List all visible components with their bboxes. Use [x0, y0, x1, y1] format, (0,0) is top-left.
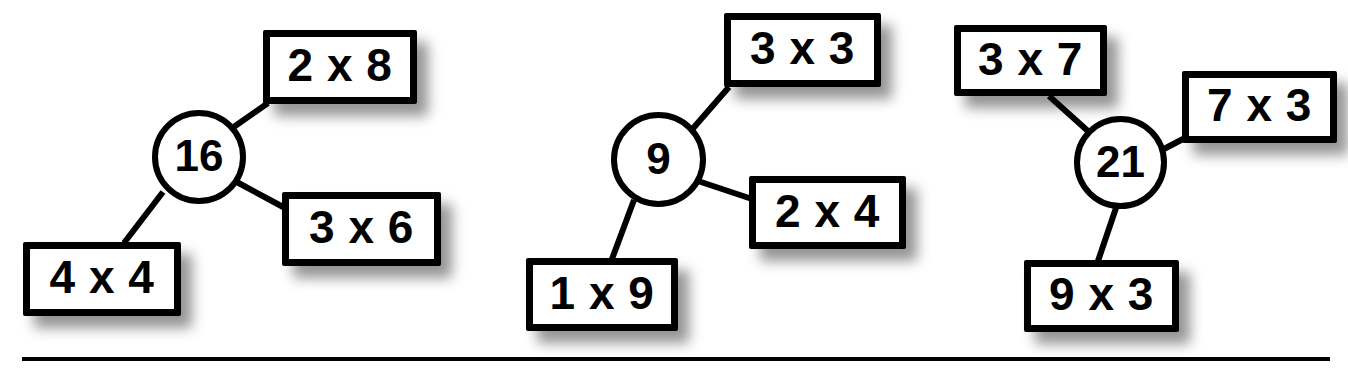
product-circle-9[interactable]: 9 [611, 112, 706, 207]
fact-box-4-x-4[interactable]: 4 x 4 [23, 242, 181, 316]
fact-box-2-x-8[interactable]: 2 x 8 [263, 30, 417, 104]
fact-label: 2 x 8 [288, 42, 393, 88]
baseline-rule [22, 357, 1330, 361]
fact-label: 7 x 3 [1207, 82, 1312, 128]
product-value: 9 [646, 137, 670, 181]
fact-box-3-x-7[interactable]: 3 x 7 [954, 25, 1107, 96]
fact-label: 3 x 6 [309, 204, 414, 250]
fact-box-7-x-3[interactable]: 7 x 3 [1182, 71, 1337, 143]
product-circle-16[interactable]: 16 [152, 110, 246, 204]
connector-line [1049, 96, 1089, 132]
fact-label: 3 x 7 [978, 36, 1083, 82]
fact-label: 1 x 9 [550, 270, 655, 316]
fact-box-9-x-3[interactable]: 9 x 3 [1024, 260, 1179, 332]
fact-box-1-x-9[interactable]: 1 x 9 [526, 258, 678, 331]
connector-line [612, 200, 634, 259]
connector-line [233, 180, 285, 208]
fact-label: 2 x 4 [775, 188, 880, 234]
product-value: 16 [175, 134, 224, 178]
fact-label: 3 x 3 [750, 25, 855, 71]
fact-box-2-x-4[interactable]: 2 x 4 [749, 176, 906, 249]
fact-label: 4 x 4 [50, 254, 155, 300]
connector-line [1098, 208, 1116, 261]
fact-label: 9 x 3 [1049, 271, 1154, 317]
product-value: 21 [1096, 140, 1145, 184]
fact-box-3-x-6[interactable]: 3 x 6 [282, 192, 441, 266]
connector-line [689, 87, 729, 133]
connector-line [695, 180, 752, 199]
product-circle-21[interactable]: 21 [1074, 116, 1167, 209]
fact-box-3-x-3[interactable]: 3 x 3 [724, 13, 881, 87]
connector-line [124, 192, 163, 243]
multiplication-fact-family-worksheet: 162 x 83 x 64 x 493 x 32 x 41 x 9213 x 7… [0, 0, 1348, 373]
